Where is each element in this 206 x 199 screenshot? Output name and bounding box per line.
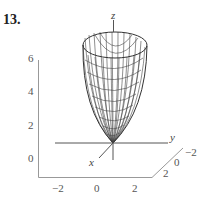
svg-text:6: 6 bbox=[28, 52, 34, 64]
svg-text:2: 2 bbox=[132, 182, 138, 194]
svg-text:2: 2 bbox=[163, 167, 169, 179]
svg-text:4: 4 bbox=[28, 85, 34, 97]
bottom-tick-labels: −2 0 2 bbox=[52, 182, 138, 194]
x-axis bbox=[99, 143, 113, 158]
z-tick-labels: 6 4 2 0 bbox=[28, 52, 34, 164]
svg-text:0: 0 bbox=[94, 182, 100, 194]
x-axis-label: x bbox=[88, 156, 94, 168]
svg-text:0: 0 bbox=[28, 152, 34, 164]
z-axis-label: z bbox=[110, 9, 116, 21]
plot-frame bbox=[39, 60, 184, 178]
paraboloid-plot: 6 4 2 0 −2 0 2 −2 0 2 bbox=[0, 0, 206, 199]
svg-text:2: 2 bbox=[28, 119, 34, 131]
paraboloid-surface bbox=[83, 32, 147, 143]
svg-text:−2: −2 bbox=[52, 182, 64, 194]
coordinate-axes: y z x bbox=[55, 9, 175, 168]
svg-text:0: 0 bbox=[174, 156, 180, 168]
y-axis-label: y bbox=[169, 131, 175, 143]
svg-text:−2: −2 bbox=[185, 146, 197, 158]
